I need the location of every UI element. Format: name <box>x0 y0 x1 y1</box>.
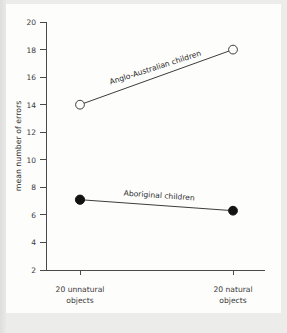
data-point-marker-filled <box>75 195 84 204</box>
data-point-marker-open <box>76 100 85 109</box>
series-anglo-australian-children: Anglo-Australian children <box>76 45 238 109</box>
y-tick-label: 4 <box>31 238 36 247</box>
series-label-aboriginal: Aboriginal children <box>123 189 195 203</box>
y-tick-label: 12 <box>26 128 36 137</box>
series-aboriginal-children: Aboriginal children <box>75 189 237 216</box>
series-line-aboriginal <box>80 200 233 211</box>
figure-container: 20 18 16 14 12 10 8 6 4 2 mean number of… <box>0 0 287 333</box>
y-tick-label: 18 <box>26 46 36 55</box>
y-tick-label: 16 <box>26 73 36 82</box>
x-category-label-line1: 20 unnatural <box>56 285 105 294</box>
y-tick-label: 8 <box>31 183 36 192</box>
y-tick-label: 6 <box>31 211 36 220</box>
x-category-label-line2: objects <box>66 296 93 305</box>
y-tick-label: 20 <box>26 18 36 27</box>
x-axis-category-labels: 20 unnatural objects 20 natural objects <box>56 285 253 305</box>
chart-panel: 20 18 16 14 12 10 8 6 4 2 mean number of… <box>6 4 281 313</box>
data-point-marker-filled <box>229 206 238 215</box>
series-label-anglo-australian: Anglo-Australian children <box>108 49 202 87</box>
y-axis-title: mean number of errors <box>14 101 23 191</box>
x-category-label-line1: 20 natural <box>213 285 252 294</box>
y-tick-label: 10 <box>26 156 36 165</box>
series-line-anglo-australian <box>80 50 233 105</box>
data-point-marker-open <box>229 45 238 54</box>
line-chart: 20 18 16 14 12 10 8 6 4 2 mean number of… <box>6 4 281 313</box>
y-tick-label: 2 <box>31 266 36 275</box>
y-axis-tick-labels: 20 18 16 14 12 10 8 6 4 2 <box>26 18 36 275</box>
y-tick-label: 14 <box>26 101 36 110</box>
y-axis-ticks <box>40 22 46 270</box>
x-category-label-line2: objects <box>219 296 246 305</box>
x-axis-ticks <box>80 270 233 275</box>
